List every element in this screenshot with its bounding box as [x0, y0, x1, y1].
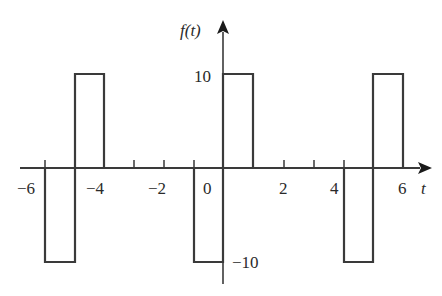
x-ticks	[45, 160, 344, 168]
x-tick-label-neg6: −6	[17, 179, 35, 198]
x-axis-arrow-icon	[418, 162, 432, 174]
x-tick-label-6: 6	[398, 179, 407, 198]
x-tick-label-4: 4	[330, 179, 339, 198]
y-tick-label-neg10: −10	[232, 253, 259, 272]
x-tick-label-neg2: −2	[148, 179, 166, 198]
y-axis-label: f(t)	[180, 21, 201, 40]
x-axis-label: t	[421, 179, 427, 198]
y-axis-arrow-icon	[217, 20, 229, 34]
waveform-chart: f(t) 10 −10 −6 −4 −2 0 2 4 6 t	[0, 0, 442, 296]
x-tick-label-2: 2	[279, 179, 288, 198]
y-tick-label-10: 10	[194, 67, 211, 86]
x-tick-label-0: 0	[203, 179, 212, 198]
x-tick-label-neg4: −4	[86, 179, 105, 198]
